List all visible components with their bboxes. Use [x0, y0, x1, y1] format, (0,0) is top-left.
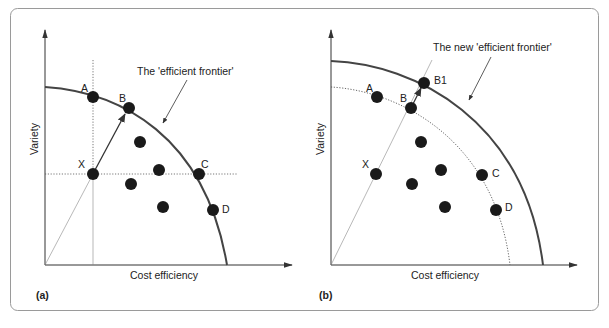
point-x	[370, 168, 382, 180]
y-axis-label: Variety	[28, 122, 40, 155]
point-a	[87, 91, 99, 103]
point-interior	[125, 178, 137, 190]
point-label-a: A	[81, 82, 88, 94]
point-label-d: D	[222, 203, 230, 215]
point-label-a: A	[366, 82, 373, 94]
point-interior	[415, 136, 427, 148]
point-label-x: X	[78, 158, 85, 170]
point-label-b: B	[400, 92, 407, 104]
x-axis-label: Cost efficiency	[130, 269, 199, 281]
panel-label-b: (b)	[319, 289, 332, 301]
panel-label-a: (a)	[36, 289, 49, 301]
point-label-c: C	[492, 167, 500, 179]
point-d	[207, 204, 219, 216]
point-interior	[153, 164, 165, 176]
point-interior	[439, 201, 451, 213]
y-axis-label: Variety	[314, 122, 326, 155]
point-label-d: D	[505, 201, 513, 213]
point-interior	[134, 136, 146, 148]
point-interior	[157, 201, 169, 213]
point-label-b: B	[119, 92, 126, 104]
x-axis-label: Cost efficiency	[411, 269, 480, 281]
new-frontier-label: The new 'efficient frontier'	[433, 41, 552, 53]
point-interior	[406, 178, 418, 190]
point-c	[476, 169, 488, 181]
point-label-c: C	[201, 158, 209, 170]
point-interior	[435, 164, 447, 176]
point-label-b1: B1	[434, 74, 447, 86]
point-label-x: X	[362, 158, 369, 170]
point-b1	[418, 77, 430, 89]
efficient-frontier-figure: The 'efficient frontier' A B X C D Cost …	[0, 0, 609, 328]
point-x	[87, 168, 99, 180]
cropped-caption	[12, 318, 602, 328]
frontier-label: The 'efficient frontier'	[137, 65, 234, 77]
point-d	[490, 204, 502, 216]
